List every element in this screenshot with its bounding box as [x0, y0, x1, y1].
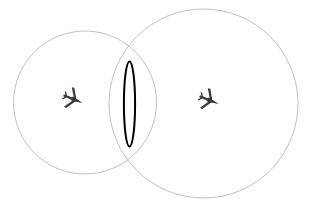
- intersection-lens-ellipse: [124, 62, 135, 147]
- diagram-canvas: [0, 0, 315, 205]
- diagram-svg: [0, 0, 315, 205]
- canvas-background: [0, 0, 315, 205]
